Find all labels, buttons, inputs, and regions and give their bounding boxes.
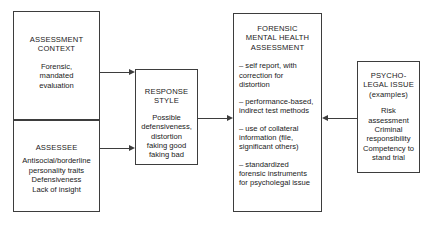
forensic-assessment-bullet: – use of collateral information (file, s… [239,124,316,152]
box-forensic-assessment: FORENSIC MENTAL HEALTH ASSESSMENT – self… [233,13,322,212]
connector-response-to-forensic [198,118,227,119]
flow-diagram: ASSESSMENT CONTEXT Forensic, mandated ev… [0,0,430,229]
forensic-assessment-bullet: – self report, with correction for disto… [239,61,316,89]
assessee-body: Antisocial/borderline personality traits… [22,156,90,194]
box-psycholegal-issue: PSYCHO- LEGAL ISSUE (examples) Risk asse… [357,61,420,173]
box-assessment-context: ASSESSMENT CONTEXT Forensic, mandated ev… [13,11,100,120]
forensic-assessment-bullet: – performance-based, indirect test metho… [239,97,316,116]
arrow-right-icon [227,115,233,121]
psycholegal-issue-body: Risk assessment Criminal responsibility … [363,106,414,162]
forensic-assessment-heading: FORENSIC MENTAL HEALTH ASSESSMENT [234,24,321,52]
forensic-assessment-bullet-list: – self report, with correction for disto… [234,61,321,195]
psycholegal-issue-heading: PSYCHO- LEGAL ISSUE (examples) [363,71,414,99]
arrow-right-icon [129,145,135,151]
connector-context-to-response [100,72,129,73]
connector-psycholegal-to-forensic [328,118,357,119]
assessment-context-body: Forensic, mandated evaluation [39,62,74,90]
box-assessee: ASSESSEE Antisocial/borderline personali… [13,120,100,212]
response-style-body: Possible defensiveness, distortion fakin… [141,113,192,160]
connector-assessee-to-response [100,148,129,149]
assessment-context-heading: ASSESSMENT CONTEXT [30,35,83,54]
forensic-assessment-bullet: – standardized forensic instruments for … [239,160,316,188]
response-style-heading: RESPONSE STYLE [145,87,188,106]
arrow-left-icon [322,115,328,121]
assessee-heading: ASSESSEE [36,143,78,152]
arrow-right-icon [129,69,135,75]
box-response-style: RESPONSE STYLE Possible defensiveness, d… [135,69,198,165]
